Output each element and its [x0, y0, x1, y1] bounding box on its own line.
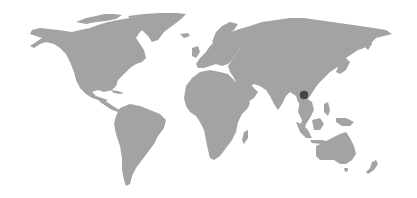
world-map-svg	[0, 0, 417, 198]
iceland	[180, 33, 190, 38]
madagascar	[242, 130, 248, 144]
british-isles	[192, 46, 200, 58]
borneo	[312, 118, 324, 130]
world-map	[0, 0, 417, 198]
tasmania	[344, 168, 348, 172]
location-marker[interactable]	[300, 91, 308, 99]
australia	[316, 132, 356, 164]
south-america	[114, 104, 166, 186]
new-zealand	[366, 160, 378, 174]
north-america	[30, 15, 158, 102]
new-guinea	[336, 118, 354, 126]
philippines	[324, 102, 330, 116]
caribbean	[110, 90, 124, 94]
central-america	[98, 98, 120, 112]
